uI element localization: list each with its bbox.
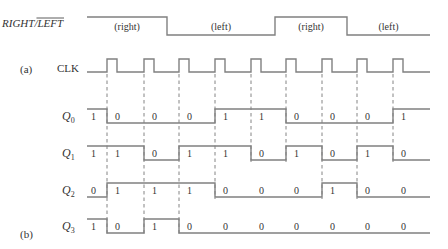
bit-value: 0 — [259, 221, 264, 232]
bit-value: 1 — [152, 185, 157, 196]
bit-value: 1 — [330, 185, 335, 196]
bit-value: 1 — [152, 221, 157, 232]
bit-value: 0 — [152, 148, 157, 159]
q3-label: Q3 — [62, 219, 75, 235]
bit-value: 0 — [365, 221, 370, 232]
bit-value: 0 — [259, 148, 264, 159]
bit-value: 0 — [365, 111, 370, 122]
bit-value: 0 — [401, 185, 406, 196]
bit-value: 0 — [401, 221, 406, 232]
bit-value: 0 — [294, 221, 299, 232]
bit-value: 1 — [187, 148, 192, 159]
part-a-label: (a) — [20, 63, 33, 76]
bit-value: 0 — [115, 111, 120, 122]
bit-value: 0 — [187, 111, 192, 122]
bit-value: 1 — [401, 111, 406, 122]
q1-label: Q1 — [62, 146, 75, 162]
q1-waveform: Q11101101010 — [62, 146, 430, 162]
bit-value: 1 — [91, 111, 96, 122]
bit-value: 1 — [365, 148, 370, 159]
direction-label: (right) — [114, 21, 140, 33]
bit-value: 0 — [187, 221, 192, 232]
bit-value: 0 — [294, 111, 299, 122]
right-left-label: RIGHT/LEFT — [1, 17, 64, 29]
q3-waveform: Q31010000000 — [62, 219, 430, 235]
q0-waveform: Q01000110001 — [62, 109, 430, 125]
bit-value: 0 — [223, 185, 228, 196]
output-waveforms: Q01000110001Q11101101010Q20111000100Q310… — [62, 109, 430, 235]
bit-value: 1 — [91, 221, 96, 232]
bit-value: 0 — [365, 185, 370, 196]
bit-value: 0 — [259, 185, 264, 196]
bit-value: 0 — [223, 221, 228, 232]
clock-edge-guides — [107, 74, 393, 235]
bit-value: 1 — [115, 185, 120, 196]
direction-label: (right) — [298, 21, 324, 33]
bit-value: 0 — [401, 148, 406, 159]
bit-value: 0 — [152, 111, 157, 122]
bit-value: 1 — [223, 111, 228, 122]
bit-value: 1 — [223, 148, 228, 159]
bit-value: 0 — [115, 221, 120, 232]
q2-waveform: Q20111000100 — [62, 183, 430, 199]
direction-label: (left) — [211, 21, 231, 33]
part-b-label: (b) — [20, 228, 33, 241]
bit-value: 0 — [294, 185, 299, 196]
bit-value: 1 — [91, 148, 96, 159]
bit-value: 1 — [294, 148, 299, 159]
bit-value: 1 — [259, 111, 264, 122]
direction-label: (left) — [379, 21, 399, 33]
bit-value: 0 — [330, 221, 335, 232]
bit-value: 0 — [330, 111, 335, 122]
q2-label: Q2 — [62, 183, 75, 199]
shift-register-timing-diagram: RIGHT/LEFT (right)(left)(right)(left) (a… — [0, 0, 448, 249]
right-left-waveform: (right)(left)(right)(left) — [87, 17, 430, 35]
bit-value: 0 — [91, 185, 96, 196]
bit-value: 1 — [187, 185, 192, 196]
bit-value: 1 — [115, 148, 120, 159]
svg-text:RIGHT/LEFT: RIGHT/LEFT — [1, 17, 64, 29]
q0-label: Q0 — [62, 109, 75, 125]
clock-label: CLK — [57, 62, 79, 74]
clock-waveform — [87, 59, 430, 72]
bit-value: 0 — [330, 148, 335, 159]
